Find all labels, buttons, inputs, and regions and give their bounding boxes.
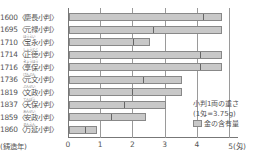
legend-entry: 金の含有量	[193, 119, 239, 129]
bar	[69, 101, 166, 109]
bar	[69, 38, 150, 46]
x-tick-label: 2	[130, 140, 135, 149]
bar	[69, 63, 222, 71]
row-label: 1695〈元禄小判〉	[0, 25, 66, 34]
x-tick-label: 5(匁)	[228, 140, 246, 151]
legend-swatch-icon	[193, 120, 202, 127]
legend-title: 小判1両の重さ	[193, 99, 239, 109]
bar	[69, 113, 146, 121]
legend: 小判1両の重さ (1匁=3.75g) 金の含有量	[193, 99, 239, 129]
gold-content-marker	[143, 77, 144, 83]
bar	[69, 126, 97, 134]
x-tick-label: 4	[194, 140, 199, 149]
row-ruby: あんせい	[23, 109, 35, 114]
row-ruby: てんぽう	[23, 97, 35, 102]
gold-content-marker	[111, 114, 112, 120]
row-ruby: まんえん	[23, 122, 35, 127]
x-tick-label: 3	[162, 140, 167, 149]
row-ruby: ほうえい	[23, 34, 35, 39]
x-axis	[68, 137, 238, 138]
gold-content-marker	[200, 52, 201, 58]
x-tick-label: 0	[66, 140, 71, 149]
gold-content-marker	[203, 14, 204, 20]
bar	[69, 51, 222, 59]
row-label: 1600〈慶長小判〉	[0, 13, 66, 22]
gold-content-marker	[200, 64, 201, 70]
bar	[69, 88, 182, 96]
bar	[69, 13, 222, 21]
bar	[69, 76, 182, 84]
gold-content-marker	[133, 39, 134, 45]
gold-content-marker	[124, 102, 125, 108]
row-ruby: きょうほう	[23, 59, 38, 64]
gold-content-marker	[85, 127, 86, 133]
x-tick-label: 1	[98, 140, 103, 149]
year-caption: (鋳造年)	[0, 140, 27, 151]
gold-content-marker	[132, 89, 133, 95]
gold-content-marker	[153, 27, 154, 33]
row-ruby: げんぶん	[23, 72, 35, 77]
legend-entry-label: 金の含有量	[204, 120, 239, 128]
row-ruby: ぶんせい	[23, 84, 35, 89]
gold-koban-chart: 1600〈慶長小判〉1695〈元禄小判〉1710〈宝永小判〉ほうえい1714〈正…	[0, 0, 254, 161]
legend-note: (1匁=3.75g)	[193, 109, 239, 119]
bar	[69, 26, 222, 34]
row-ruby: しょうとく	[23, 47, 38, 52]
